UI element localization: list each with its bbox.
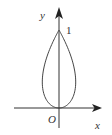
diagram-canvas: y 1 O x: [0, 0, 112, 135]
diagram: y 1 O x: [0, 0, 112, 135]
y-tick-label-one: 1: [66, 24, 72, 36]
x-axis-label: x: [94, 119, 100, 131]
y-axis-label: y: [39, 9, 45, 21]
origin-label: O: [48, 113, 56, 125]
